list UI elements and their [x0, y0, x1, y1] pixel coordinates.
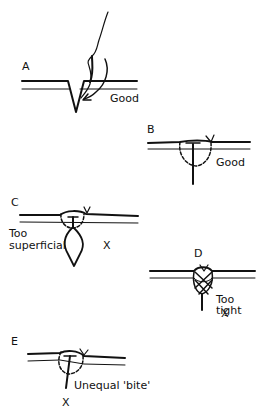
panel-d-letter: D — [194, 248, 202, 259]
panel-c-drawing — [20, 207, 138, 266]
panel-a-caption: Good — [110, 93, 139, 104]
panel-c-letter: C — [11, 197, 19, 208]
panel-c-caption-line1: Too — [9, 228, 27, 239]
panel-e-letter: E — [11, 336, 18, 347]
panel-a-letter: A — [22, 61, 30, 72]
panel-b-letter: B — [147, 124, 155, 135]
panel-c-caption-line2: superficial — [9, 240, 66, 251]
panel-b-caption: Good — [216, 157, 245, 168]
panel-d-verdict-mark: X — [221, 308, 229, 319]
diagram-canvas — [0, 0, 262, 419]
panel-e-verdict-mark: X — [62, 397, 70, 408]
panel-e-caption: Unequal 'bite' — [74, 380, 150, 391]
panel-c-verdict-mark: X — [103, 240, 111, 251]
